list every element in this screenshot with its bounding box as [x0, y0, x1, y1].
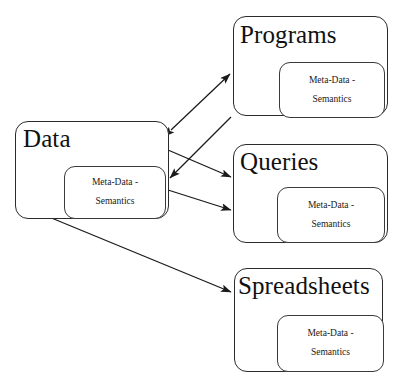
node-programs-metadata-line2: Semantics: [312, 95, 351, 105]
node-data-metadata-line1: Meta-Data -: [92, 178, 138, 188]
node-programs-metadata-line1: Meta-Data -: [309, 76, 355, 86]
node-queries-metadata-line1: Meta-Data -: [308, 201, 354, 211]
node-spreadsheets-title: Spreadsheets: [238, 272, 370, 300]
edge-programs-data: [170, 117, 231, 178]
node-spreadsheets-metadata-line2: Semantics: [311, 348, 350, 358]
edge-data-programs: [171, 74, 230, 130]
node-queries-metadata-line2: Semantics: [311, 220, 350, 230]
diagram-canvas: Data Meta-Data - Semantics Programs Meta…: [0, 0, 402, 390]
node-spreadsheets-metadata-line1: Meta-Data -: [307, 329, 353, 339]
edge-data-queries-lower: [168, 190, 231, 210]
node-data-title: Data: [23, 125, 71, 153]
edge-data-spreadsheets: [49, 217, 231, 292]
node-data-metadata-box[interactable]: Meta-Data - Semantics: [64, 166, 166, 219]
node-programs-metadata-box[interactable]: Meta-Data - Semantics: [279, 62, 385, 118]
edge-data-queries-upper: [168, 150, 231, 177]
node-spreadsheets-metadata-box[interactable]: Meta-Data - Semantics: [277, 315, 384, 372]
node-data-metadata-line2: Semantics: [95, 197, 134, 207]
node-queries-title: Queries: [240, 148, 318, 176]
node-programs-title: Programs: [240, 21, 337, 49]
node-queries-metadata-box[interactable]: Meta-Data - Semantics: [277, 187, 385, 243]
